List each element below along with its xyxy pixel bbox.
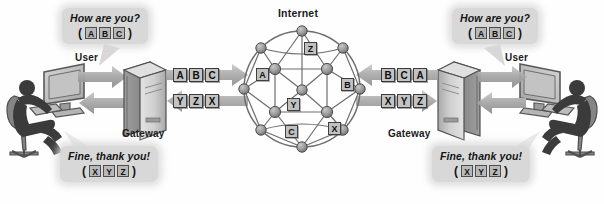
right-incoming-bubble-text: How are you? <box>460 12 530 25</box>
letter-tile: B <box>489 27 501 39</box>
internet-label: Internet <box>278 7 318 19</box>
left-gateway-label: Gateway <box>122 128 165 139</box>
close-paren: ) <box>517 27 523 39</box>
cloud-packet-tag: C <box>285 125 298 138</box>
network-diagram: Internet User Gateway User Gateway How a… <box>0 0 604 204</box>
letter-tile: A <box>85 27 97 39</box>
right-gateway-icon <box>438 62 480 140</box>
left-outgoing-bubble: How are you? ( A B C ) <box>62 8 148 44</box>
right-gateway-label: Gateway <box>388 128 431 139</box>
left-arrow-to-user <box>79 92 128 114</box>
left-outgoing-packets: A B C <box>173 68 219 82</box>
right-top-bubble-tail <box>484 44 505 66</box>
letter-tile: X <box>461 165 473 177</box>
letter-tile: Y <box>103 165 115 177</box>
right-outgoing-bubble: Fine, thank you! ( X Y Z ) <box>432 146 530 182</box>
close-paren: ) <box>503 165 509 177</box>
cloud-packet-tag: Z <box>304 42 317 55</box>
right-incoming-bubble: How are you? ( A B C ) <box>452 8 538 44</box>
packet-tile: B <box>381 68 395 82</box>
cloud-packet-tag: Y <box>287 98 300 111</box>
letter-tile: A <box>475 27 487 39</box>
packet-tile: C <box>397 68 411 82</box>
packet-tile: X <box>205 94 219 108</box>
left-incoming-packets: Y Z X <box>173 94 219 108</box>
left-arrow-to-gateway <box>78 66 127 88</box>
right-outgoing-bubble-text: Fine, thank you! <box>440 150 522 163</box>
cloud-packet-tag: B <box>341 78 354 91</box>
left-incoming-bubble: Fine, thank you! ( X Y Z ) <box>60 146 158 182</box>
open-paren: ( <box>467 27 473 39</box>
packet-tile: Y <box>173 94 187 108</box>
packet-tile: Z <box>189 94 203 108</box>
letter-tile: B <box>99 27 111 39</box>
close-paren: ) <box>131 165 137 177</box>
left-user-label: User <box>75 52 98 63</box>
open-paren: ( <box>81 165 87 177</box>
letter-tile: C <box>503 27 515 39</box>
packet-tile: A <box>173 68 187 82</box>
letter-tile: Z <box>489 165 501 177</box>
open-paren: ( <box>453 165 459 177</box>
packet-tile: Z <box>413 94 427 108</box>
letter-tile: X <box>89 165 101 177</box>
cloud-packet-tag: X <box>328 122 341 135</box>
letter-tile: Z <box>117 165 129 177</box>
packet-tile: X <box>381 94 395 108</box>
open-paren: ( <box>77 27 83 39</box>
right-arrow-to-gateway <box>477 92 526 114</box>
packet-tile: C <box>205 68 219 82</box>
left-incoming-bubble-letters: ( X Y Z ) <box>68 165 150 177</box>
left-incoming-bubble-text: Fine, thank you! <box>68 150 150 163</box>
letter-tile: Y <box>475 165 487 177</box>
letter-tile: C <box>113 27 125 39</box>
left-outgoing-bubble-text: How are you? <box>70 12 140 25</box>
right-user-label: User <box>505 52 528 63</box>
cloud-packet-tag: A <box>256 68 269 81</box>
packet-tile: A <box>413 68 427 82</box>
packet-tile: B <box>189 68 203 82</box>
left-outgoing-bubble-letters: ( A B C ) <box>70 27 140 39</box>
right-outgoing-bubble-letters: ( X Y Z ) <box>440 165 522 177</box>
left-top-bubble-tail <box>99 44 120 66</box>
packet-tile: Y <box>397 94 411 108</box>
right-incoming-bubble-letters: ( A B C ) <box>460 27 530 39</box>
right-incoming-packets: B C A <box>381 68 427 82</box>
right-outgoing-packets: X Y Z <box>381 94 427 108</box>
close-paren: ) <box>127 27 133 39</box>
